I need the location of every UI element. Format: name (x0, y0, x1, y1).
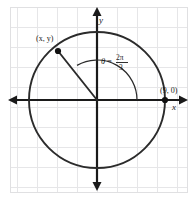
terminal-point-label: (x, y) (36, 34, 54, 43)
angle-symbol: θ (101, 56, 105, 66)
angle-equals-sign: = (107, 56, 112, 66)
x-intercept-point-dot (162, 97, 168, 103)
y-axis-label: y (98, 15, 103, 25)
figure-canvas: y x (x, y) (9, 0) θ = 2π 3 (0, 0, 196, 198)
terminal-point-dot (55, 48, 61, 54)
x-axis-label: x (171, 102, 176, 112)
x-intercept-point-label: (9, 0) (160, 86, 178, 95)
angle-denominator: 3 (119, 63, 123, 72)
angle-numerator: 2π (116, 53, 124, 62)
circle-figure: y x (x, y) (9, 0) θ = 2π 3 (0, 0, 196, 198)
